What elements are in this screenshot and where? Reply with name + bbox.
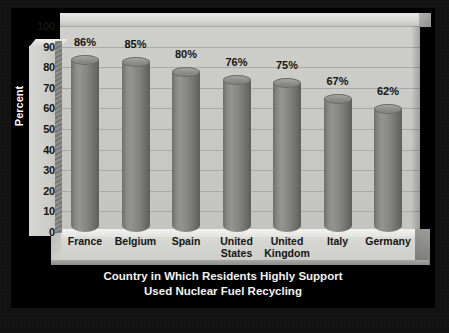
bar: 62% <box>374 104 402 232</box>
x-axis-category-label: France <box>59 236 111 248</box>
bar-value-label: 62% <box>377 85 399 97</box>
y-axis-slab-side-hatching <box>55 41 62 233</box>
bar-value-label: 80% <box>175 48 197 60</box>
bar-cylinder-top-cap <box>122 57 150 67</box>
bar: 76% <box>223 75 251 232</box>
y-axis-tick-label: 80 <box>29 62 55 73</box>
bar-cylinder-body <box>223 80 251 232</box>
bar-cylinder-body <box>273 83 301 233</box>
x-axis-category-label: Italy <box>312 236 364 248</box>
x-axis-category-label: Germany <box>362 236 414 248</box>
back-wall-top-right-bevel <box>419 13 431 27</box>
y-axis-tick-label: 90 <box>29 42 55 53</box>
bar-cylinder-body <box>374 109 402 232</box>
x-axis-category-label: United Kingdom <box>261 236 313 259</box>
bar-value-label: 67% <box>326 75 348 87</box>
bar-value-label: 75% <box>276 59 298 71</box>
y-axis-title: Percent <box>13 76 25 136</box>
bar-cylinder-top-cap <box>324 94 352 104</box>
bar-value-label: 86% <box>74 36 96 48</box>
chart-title: Country in Which Residents Highly Suppor… <box>11 269 435 299</box>
y-axis-tick-label: 20 <box>29 186 55 197</box>
bar-value-label: 76% <box>225 56 247 68</box>
bar-cylinder-body <box>172 72 200 232</box>
plot-floor-bottom-edge <box>51 260 429 265</box>
y-axis-tick-label: 60 <box>29 103 55 114</box>
y-axis-slab-face: 1009080706050403020100 <box>29 46 55 236</box>
plot-area-right-shading <box>411 26 420 229</box>
bar-cylinder-top-cap <box>71 55 99 65</box>
bar: 75% <box>273 78 301 233</box>
y-axis-tick-label: 100 <box>29 21 55 32</box>
x-axis-category-label: Belgium <box>110 236 162 248</box>
y-axis-tick-label: 30 <box>29 165 55 176</box>
bar-value-label: 85% <box>124 38 146 50</box>
y-axis-tick-label: 0 <box>29 227 55 238</box>
chart-title-line-1: Country in Which Residents Highly Suppor… <box>11 269 435 284</box>
y-axis-tick-label: 50 <box>29 124 55 135</box>
chart-image-frame: 1009080706050403020100 Percent 86%85%80%… <box>0 0 449 333</box>
back-wall-top-bevel <box>60 13 429 26</box>
x-axis-category-label: Spain <box>160 236 212 248</box>
y-axis-tick-label: 70 <box>29 83 55 94</box>
y-axis-tick-label: 10 <box>29 206 55 217</box>
bar-chart-3d: 1009080706050403020100 Percent 86%85%80%… <box>11 8 435 308</box>
bar-cylinder-top-cap <box>273 78 301 88</box>
bar: 80% <box>172 67 200 232</box>
bar: 85% <box>122 57 150 232</box>
bar-cylinder-body <box>122 62 150 232</box>
x-axis-category-label: United States <box>211 236 263 259</box>
y-axis-tick-label: 40 <box>29 145 55 156</box>
chart-title-line-2: Used Nuclear Fuel Recycling <box>11 284 435 299</box>
bar: 67% <box>324 94 352 232</box>
bar: 86% <box>71 55 99 232</box>
gridline <box>60 47 420 48</box>
bar-cylinder-body <box>71 60 99 232</box>
bar-cylinder-body <box>324 99 352 232</box>
gridline <box>60 26 420 27</box>
